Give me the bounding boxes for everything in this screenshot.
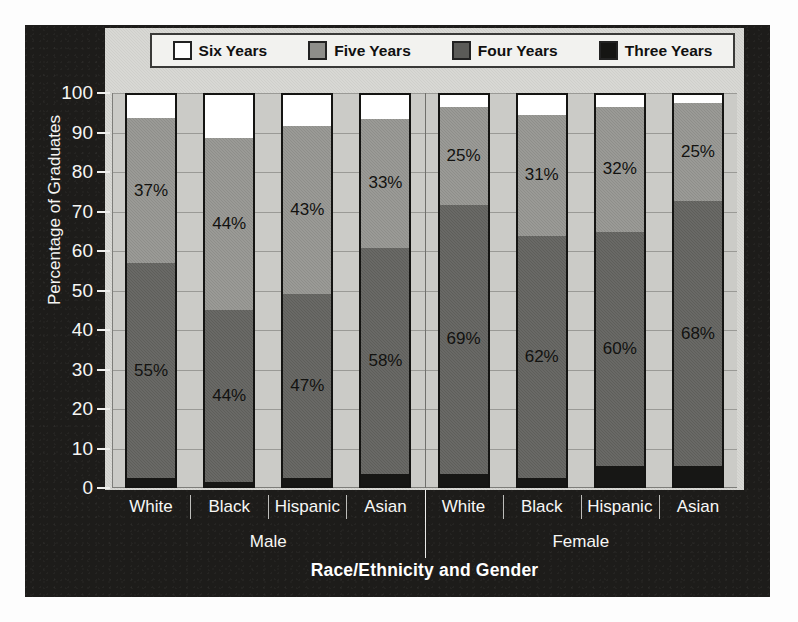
bar-segment-label: 68% bbox=[681, 324, 715, 344]
bar-segment[interactable]: 32% bbox=[596, 107, 644, 232]
bar-segment[interactable] bbox=[127, 95, 175, 118]
bar-segment[interactable]: 44% bbox=[205, 138, 253, 310]
bar-segment[interactable]: 31% bbox=[518, 115, 566, 236]
stacked-bar[interactable]: 68%25% bbox=[672, 93, 724, 488]
y-axis-tick-label: 10 bbox=[72, 438, 93, 460]
x-axis-group-labels: MaleFemale bbox=[112, 528, 737, 556]
bar-segment[interactable]: 60% bbox=[596, 232, 644, 467]
bar-segment[interactable]: 37% bbox=[127, 118, 175, 263]
x-axis-category-label: White bbox=[425, 492, 503, 522]
chart-legend: Six YearsFive YearsFour YearsThree Years bbox=[150, 33, 735, 68]
bar-segment[interactable] bbox=[283, 478, 331, 486]
y-axis-tick-label: 50 bbox=[72, 280, 93, 302]
bar-segment-label: 60% bbox=[603, 339, 637, 359]
stacked-bar[interactable]: 47%43% bbox=[281, 93, 333, 488]
bar-segment[interactable]: 58% bbox=[361, 248, 409, 475]
bar-segment[interactable]: 68% bbox=[674, 201, 722, 467]
bar-segment-label: 37% bbox=[134, 181, 168, 201]
x-axis-category-label: Asian bbox=[346, 492, 424, 522]
legend-item: Four Years bbox=[452, 41, 558, 60]
stacked-bar[interactable]: 58%33% bbox=[359, 93, 411, 488]
x-axis-category-label: Hispanic bbox=[581, 492, 659, 522]
bar-segment-label: 47% bbox=[290, 376, 324, 396]
y-axis-tick-label: 20 bbox=[72, 398, 93, 420]
y-axis-tick bbox=[97, 487, 110, 489]
chart-figure: Six YearsFive YearsFour YearsThree Years… bbox=[0, 0, 798, 622]
bar-segment[interactable] bbox=[205, 95, 253, 138]
bar-slot: 62%31% bbox=[503, 93, 581, 488]
stacked-bar[interactable]: 62%31% bbox=[516, 93, 568, 488]
bar-segment[interactable] bbox=[596, 466, 644, 486]
y-axis-tick-label: 30 bbox=[72, 359, 93, 381]
y-axis-tick-label: 40 bbox=[72, 319, 93, 341]
y-axis-tick bbox=[97, 132, 110, 134]
bar-segment[interactable] bbox=[518, 95, 566, 115]
stacked-bar[interactable]: 44%44% bbox=[203, 93, 255, 488]
x-axis-group-label: Male bbox=[112, 528, 425, 556]
bar-segment[interactable] bbox=[283, 95, 331, 126]
stacked-bar[interactable]: 69%25% bbox=[438, 93, 490, 488]
bar-segment-label: 69% bbox=[447, 329, 481, 349]
bar-segment[interactable]: 47% bbox=[283, 294, 331, 478]
y-axis-title: Percentage of Graduates bbox=[45, 95, 65, 325]
y-axis-tick-label: 70 bbox=[72, 201, 93, 223]
y-axis-tick bbox=[97, 171, 110, 173]
legend-item-label: Three Years bbox=[625, 42, 713, 60]
bar-segment[interactable]: 33% bbox=[361, 119, 409, 248]
y-axis-tick bbox=[97, 329, 110, 331]
y-axis-tick bbox=[97, 250, 110, 252]
bar-segment[interactable] bbox=[440, 474, 488, 486]
stacked-bar[interactable]: 55%37% bbox=[125, 93, 177, 488]
bar-segment[interactable]: 62% bbox=[518, 236, 566, 478]
group-divider bbox=[425, 93, 426, 488]
y-axis-tick-label: 100 bbox=[61, 82, 93, 104]
bar-segment[interactable]: 43% bbox=[283, 126, 331, 294]
bar-segment[interactable] bbox=[440, 95, 488, 107]
bar-segment-label: 62% bbox=[525, 347, 559, 367]
bar-segment-label: 44% bbox=[212, 386, 246, 406]
bar-segment[interactable] bbox=[127, 478, 175, 486]
bar-slot: 47%43% bbox=[268, 93, 346, 488]
x-axis-category-labels: WhiteBlackHispanicAsianWhiteBlackHispani… bbox=[112, 492, 737, 522]
legend-item: Three Years bbox=[599, 41, 713, 60]
bar-slot: 69%25% bbox=[425, 93, 503, 488]
legend-item-label: Five Years bbox=[334, 42, 410, 60]
bar-segment[interactable]: 44% bbox=[205, 310, 253, 482]
bar-segment[interactable] bbox=[518, 478, 566, 486]
bar-segment[interactable]: 25% bbox=[674, 103, 722, 201]
bar-segment[interactable]: 69% bbox=[440, 205, 488, 475]
bar-segment[interactable] bbox=[674, 95, 722, 103]
bar-segment-label: 25% bbox=[681, 142, 715, 162]
bar-segment-label: 31% bbox=[525, 165, 559, 185]
y-axis-tick bbox=[97, 369, 110, 371]
bar-segment[interactable] bbox=[361, 474, 409, 486]
legend-swatch-white bbox=[173, 41, 192, 60]
bar-slot: 55%37% bbox=[112, 93, 190, 488]
y-axis-tick-label: 80 bbox=[72, 161, 93, 183]
x-axis-title: Race/Ethnicity and Gender bbox=[112, 560, 737, 581]
bar-segment-label: 55% bbox=[134, 361, 168, 381]
x-axis-category-label: Hispanic bbox=[268, 492, 346, 522]
legend-item: Five Years bbox=[308, 41, 410, 60]
bar-segment[interactable] bbox=[205, 482, 253, 486]
bar-segment-label: 33% bbox=[368, 173, 402, 193]
legend-swatch-dark-gray bbox=[452, 41, 471, 60]
legend-swatch-light-gray bbox=[308, 41, 327, 60]
y-axis-tick-label: 90 bbox=[72, 122, 93, 144]
bar-slot: 44%44% bbox=[190, 93, 268, 488]
y-axis-tick bbox=[97, 408, 110, 410]
bar-segment[interactable] bbox=[674, 466, 722, 486]
legend-item: Six Years bbox=[173, 41, 268, 60]
bar-segment[interactable] bbox=[596, 95, 644, 107]
x-axis-group-label: Female bbox=[425, 528, 738, 556]
bar-segment[interactable]: 25% bbox=[440, 107, 488, 205]
plot-area: 1009080706050403020100 55%37%44%44%47%43… bbox=[112, 93, 737, 488]
bar-segment[interactable] bbox=[361, 95, 409, 118]
bar-slot: 60%32% bbox=[581, 93, 659, 488]
x-axis-category-label: Black bbox=[190, 492, 268, 522]
bar-segment-label: 32% bbox=[603, 159, 637, 179]
bar-slot: 68%25% bbox=[659, 93, 737, 488]
stacked-bar[interactable]: 60%32% bbox=[594, 93, 646, 488]
y-axis-tick-label: 0 bbox=[82, 477, 93, 499]
bar-segment[interactable]: 55% bbox=[127, 263, 175, 478]
